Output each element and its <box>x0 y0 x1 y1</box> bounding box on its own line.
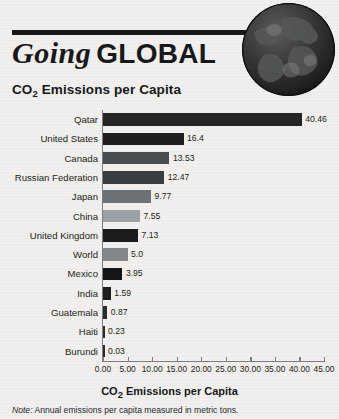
bar-value-label: 40.46 <box>305 110 327 129</box>
page-title: GoingGLOBAL <box>12 36 216 70</box>
bar <box>103 210 140 223</box>
bar-value-label: 1.59 <box>114 284 131 303</box>
bar-row: World5.0 <box>0 245 339 264</box>
bar-row: India1.59 <box>0 284 339 303</box>
bar <box>103 248 128 261</box>
bar-row: Qatar40.46 <box>0 110 339 129</box>
x-axis-tick-label: 10.00 <box>140 364 164 374</box>
bar-value-label: 3.95 <box>126 264 143 283</box>
bar <box>103 268 122 281</box>
bar-row: China7.55 <box>0 207 339 226</box>
bar <box>103 133 184 146</box>
bar <box>103 229 138 242</box>
x-axis-tick-label: 40.00 <box>287 364 311 374</box>
bar-category-label: Russian Federation <box>0 168 98 187</box>
x-axis-tick <box>103 357 104 362</box>
bar <box>103 152 169 165</box>
x-axis-tick <box>275 357 276 362</box>
x-axis-tick <box>250 357 251 362</box>
chart-title-suffix: Emissions per Capita <box>38 82 181 97</box>
note-text: Annual emissions per capita measured in … <box>33 405 239 415</box>
bar-category-label: Burundi <box>0 342 98 361</box>
bar <box>103 345 105 358</box>
x-axis-tick <box>201 357 202 362</box>
x-axis-tick-label: 20.00 <box>189 364 213 374</box>
bar-value-label: 0.03 <box>108 342 125 361</box>
x-axis-tick <box>177 357 178 362</box>
bar-category-label: United Kingdom <box>0 226 98 245</box>
globe-earth-icon <box>242 3 335 96</box>
bar-value-label: 12.47 <box>168 168 190 187</box>
bar-row: Canada13.53 <box>0 149 339 168</box>
page-title-serif: Going <box>12 36 91 69</box>
x-axis-tick-label: 0.00 <box>91 364 115 374</box>
bar-value-label: 7.55 <box>144 207 161 226</box>
bar-category-label: Haiti <box>0 322 98 341</box>
bar-category-label: Japan <box>0 187 98 206</box>
bar-category-label: Canada <box>0 149 98 168</box>
x-axis-tick <box>226 357 227 362</box>
x-axis-line <box>102 361 324 362</box>
bar-value-label: 0.87 <box>111 303 128 322</box>
bar-value-label: 5.0 <box>131 245 143 264</box>
bar-category-label: Qatar <box>0 110 98 129</box>
bar-row: Japan9.77 <box>0 187 339 206</box>
bar-category-label: United States <box>0 129 98 148</box>
bar-row: Mexico3.95 <box>0 264 339 283</box>
bar-category-label: World <box>0 245 98 264</box>
axis-title-prefix: CO <box>101 385 118 397</box>
bar-value-label: 0.23 <box>108 322 125 341</box>
bar-value-label: 16.4 <box>187 129 204 148</box>
bar-value-label: 7.13 <box>142 226 159 245</box>
bar <box>103 306 107 319</box>
x-axis-tick-label: 15.00 <box>165 364 189 374</box>
bar-row: United States16.4 <box>0 129 339 148</box>
bar <box>103 190 151 203</box>
page-title-sans: GLOBAL <box>96 38 216 69</box>
bar-row: Burundi0.03 <box>0 342 339 361</box>
x-axis-tick <box>324 357 325 362</box>
bar-category-label: Guatemala <box>0 303 98 322</box>
bar-row: Haiti0.23 <box>0 322 339 341</box>
x-axis-tick-label: 5.00 <box>116 364 140 374</box>
bar-category-label: Mexico <box>0 264 98 283</box>
x-axis-tick <box>128 357 129 362</box>
x-axis-tick <box>299 357 300 362</box>
bar-row: Russian Federation12.47 <box>0 168 339 187</box>
bar-chart-plot: Qatar40.46United States16.4Canada13.53Ru… <box>0 110 339 362</box>
header-rule <box>12 30 254 35</box>
x-axis: 0.005.0010.0015.0020.0025.0030.0035.0040… <box>0 361 339 377</box>
chart-title-prefix: CO <box>12 82 32 97</box>
chart-note: Note: Annual emissions per capita measur… <box>12 405 238 415</box>
bar-category-label: China <box>0 207 98 226</box>
note-label: Note: <box>12 405 33 415</box>
x-axis-tick-label: 35.00 <box>263 364 287 374</box>
chart-title: CO2 Emissions per Capita <box>12 82 181 97</box>
bar-row: Guatemala0.87 <box>0 303 339 322</box>
x-axis-tick-label: 30.00 <box>238 364 262 374</box>
x-axis-tick-label: 45.00 <box>312 364 336 374</box>
chart-title-sub: 2 <box>32 88 37 99</box>
bar-category-label: India <box>0 284 98 303</box>
bar-value-label: 9.77 <box>154 187 171 206</box>
bar <box>103 287 111 300</box>
bar <box>103 113 302 126</box>
bar <box>103 326 105 339</box>
bar-row: United Kingdom7.13 <box>0 226 339 245</box>
bar-value-label: 13.53 <box>173 149 195 168</box>
poster-page: GoingGLOBAL <box>0 0 339 419</box>
x-axis-tick-label: 25.00 <box>214 364 238 374</box>
axis-title-suffix: Emissions per Capita <box>123 385 238 397</box>
x-axis-title: CO2 Emissions per Capita <box>0 385 339 397</box>
axis-title-sub: 2 <box>118 389 123 400</box>
x-axis-tick <box>152 357 153 362</box>
bar <box>103 171 164 184</box>
